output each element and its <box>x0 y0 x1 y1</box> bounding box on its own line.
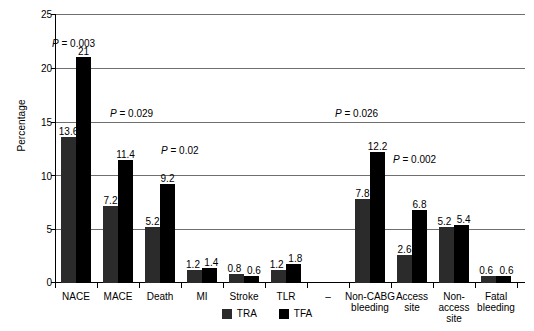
y-tickmark-10 <box>51 175 56 176</box>
legend-swatch-tra-icon <box>222 309 232 319</box>
y-tickmark-5 <box>51 229 56 230</box>
bar-fatal-bleeding-tfa[interactable]: 0.6 <box>496 276 511 283</box>
legend-label-tfa: TFA <box>294 308 312 319</box>
bar-nace-tfa[interactable]: 21 <box>76 57 91 283</box>
bar-mi-tfa[interactable]: 1.4 <box>202 268 217 283</box>
bar-group-tlr: 1.2 1.8 <box>271 14 301 283</box>
bar-group-fatal-bleeding: 0.6 0.6 <box>481 14 511 283</box>
y-tick-20: 20 <box>22 63 52 74</box>
x-tickmark-10 <box>475 283 476 288</box>
x-tickmark-0 <box>55 283 56 288</box>
x-tickmark-4 <box>223 283 224 288</box>
bar-mace-tra[interactable]: 7.2 <box>103 206 118 283</box>
y-tickmark-20 <box>51 68 56 69</box>
bar-non-access-site-tra[interactable]: 5.2 <box>439 227 454 283</box>
bar-access-site-tra[interactable]: 2.6 <box>397 255 412 283</box>
bar-mi-tra[interactable]: 1.2 <box>187 270 202 283</box>
y-axis-line <box>55 14 56 283</box>
bar-non-cabg-bleeding-tra[interactable]: 7.8 <box>355 199 370 283</box>
y-tickmark-15 <box>51 122 56 123</box>
bar-death-tfa[interactable]: 9.2 <box>160 184 175 283</box>
x-tickmark-2 <box>139 283 140 288</box>
x-tickmark-5 <box>265 283 266 288</box>
bar-group-non-cabg-bleeding: 7.8 12.2 <box>355 14 385 283</box>
bar-value-mi-tfa: 1.4 <box>204 257 218 268</box>
x-tickmark-8 <box>391 283 392 288</box>
bar-value-fatal-bleeding-tra: 0.6 <box>479 265 493 276</box>
y-tick-10: 10 <box>22 171 52 182</box>
bar-value-tlr-tfa: 1.8 <box>288 253 302 264</box>
pvalue-death: P = 0.02 <box>161 145 199 156</box>
bar-value-non-access-site-tra: 5.2 <box>437 216 451 227</box>
x-tickmark-9 <box>433 283 434 288</box>
bar-group-nace: 13.6 21 <box>61 14 91 283</box>
bar-value-death-tra: 5.2 <box>146 216 160 227</box>
y-tick-25: 25 <box>22 9 52 20</box>
bar-fatal-bleeding-tra[interactable]: 0.6 <box>481 276 496 283</box>
bar-value-access-site-tra: 2.6 <box>398 244 412 255</box>
bar-access-site-tfa[interactable]: 6.8 <box>412 210 427 283</box>
plot-area: 13.6 21 7.2 11.4 5.2 9.2 <box>55 14 525 283</box>
y-tick-5: 5 <box>22 224 52 235</box>
bar-value-stroke-tfa: 0.6 <box>247 265 261 276</box>
y-tick-15: 15 <box>22 117 52 128</box>
bar-chart: Percentage 25 20 15 10 5 0 13.6 21 <box>0 0 534 331</box>
bar-value-non-cabg-bleeding-tfa: 12.2 <box>368 141 387 152</box>
x-tickmark-6 <box>307 283 308 288</box>
legend-item-tra[interactable]: TRA <box>222 308 257 319</box>
pvalue-non-cabg-top: P = 0.026 <box>335 108 378 119</box>
bar-non-cabg-bleeding-tfa[interactable]: 12.2 <box>370 152 385 283</box>
x-label-access-site-line1: Access <box>396 291 428 302</box>
bar-nace-tra[interactable]: 13.6 <box>61 137 76 283</box>
legend-item-tfa[interactable]: TFA <box>279 308 312 319</box>
bar-group-access-site: 2.6 6.8 <box>397 14 427 283</box>
y-tickmark-25 <box>51 14 56 15</box>
x-label-fatal-bleeding-line1: Fatal <box>485 291 507 302</box>
bar-value-non-access-site-tfa: 5.4 <box>457 214 471 225</box>
bar-value-non-cabg-bleeding-tra: 7.8 <box>356 188 370 199</box>
bar-non-access-site-tfa[interactable]: 5.4 <box>454 225 469 283</box>
legend-label-tra: TRA <box>237 308 257 319</box>
bar-value-stroke-tra: 0.8 <box>227 263 241 274</box>
bar-death-tra[interactable]: 5.2 <box>145 227 160 283</box>
pvalue-non-cabg-bar: P = 0.002 <box>393 154 436 165</box>
bar-value-mi-tra: 1.2 <box>186 259 200 270</box>
bar-group-stroke: 0.8 0.6 <box>229 14 259 283</box>
x-tickmark-1 <box>97 283 98 288</box>
x-tickmark-7 <box>349 283 350 288</box>
bar-value-tlr-tra: 1.2 <box>270 259 284 270</box>
bar-mace-tfa[interactable]: 11.4 <box>118 160 133 283</box>
y-tick-0: 0 <box>22 277 52 288</box>
x-tickmark-3 <box>181 283 182 288</box>
x-tickmark-11 <box>517 283 518 288</box>
bar-value-fatal-bleeding-tfa: 0.6 <box>500 265 514 276</box>
pvalue-nace: P = 0.003 <box>52 38 95 49</box>
legend: TRA TFA <box>0 308 534 319</box>
bar-stroke-tfa[interactable]: 0.6 <box>244 276 259 283</box>
bar-value-mace-tfa: 11.4 <box>116 149 135 160</box>
bar-group-mace: 7.2 11.4 <box>103 14 133 283</box>
legend-swatch-tfa-icon <box>279 309 289 319</box>
bar-stroke-tra[interactable]: 0.8 <box>229 274 244 283</box>
bar-value-mace-tra: 7.2 <box>104 195 118 206</box>
bar-value-access-site-tfa: 6.8 <box>413 199 427 210</box>
bar-tlr-tra[interactable]: 1.2 <box>271 270 286 283</box>
pvalue-mace: P = 0.029 <box>110 108 153 119</box>
bar-group-non-access-site: 5.2 5.4 <box>439 14 469 283</box>
bar-value-death-tfa: 9.2 <box>161 173 175 184</box>
bar-tlr-tfa[interactable]: 1.8 <box>286 264 301 283</box>
